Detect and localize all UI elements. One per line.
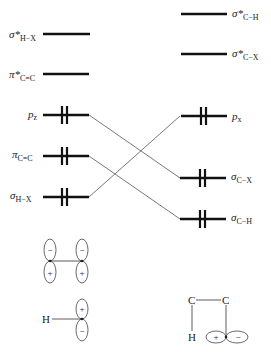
- atom-label: H: [188, 331, 196, 343]
- left-levels: σ*H−X π*C=C pz πC=C σH−X: [9, 28, 90, 206]
- phase-sign: −: [79, 326, 84, 336]
- phase-sign: +: [213, 332, 218, 342]
- level-label: σ*H−X: [9, 28, 36, 43]
- level-pi-c-c: πC=C: [12, 147, 89, 165]
- level-label: π*C=C: [9, 68, 35, 83]
- right-levels: σ*C−H σ*C−X px σC−X σC−H: [180, 7, 259, 228]
- level-pi-star-c-c: π*C=C: [9, 68, 89, 83]
- phase-sign: −: [79, 245, 84, 255]
- phase-sign: +: [79, 304, 84, 314]
- correlation-lines: [89, 115, 180, 219]
- level-sigma-c-x: σC−X: [180, 169, 252, 187]
- level-p-z: pz: [27, 106, 89, 124]
- level-sigma-h-x: σH−X: [10, 188, 89, 206]
- level-label: σ*C−H: [232, 7, 259, 22]
- atom-label: C: [188, 294, 195, 306]
- level-sigma-star-c-h: σ*C−H: [181, 7, 259, 22]
- level-label: σ*C−X: [232, 47, 259, 62]
- sketch-h-p-labels: H + −: [42, 304, 85, 336]
- sketch-pi-bond-signs: − + − +: [47, 245, 84, 278]
- level-p-x: px: [181, 107, 242, 125]
- sketch-c-c-h-labels: C C H + −: [188, 294, 241, 343]
- level-sigma-star-h-x: σ*H−X: [9, 28, 90, 43]
- level-label: σC−X: [231, 170, 252, 185]
- phase-sign: +: [79, 268, 84, 278]
- level-sigma-c-h: σC−H: [180, 210, 252, 228]
- orbital-diagram: σ*H−X π*C=C pz πC=C σH−X σ*C−H: [0, 0, 271, 352]
- correlation-sigma-hx-to-px: [89, 116, 180, 197]
- correlation-pi-to-sigma-ch: [89, 156, 180, 219]
- level-sigma-star-c-x: σ*C−X: [181, 47, 259, 62]
- phase-sign: −: [47, 245, 52, 255]
- level-label: πC=C: [12, 148, 33, 163]
- level-label: σH−X: [10, 189, 32, 204]
- level-label: pz: [27, 108, 38, 122]
- level-label: σC−H: [231, 211, 252, 226]
- atom-label: H: [42, 313, 50, 325]
- level-label: px: [231, 110, 242, 124]
- correlation-pz-to-sigma-cx: [89, 115, 180, 178]
- phase-sign: +: [47, 268, 52, 278]
- atom-label: C: [222, 294, 229, 306]
- phase-sign: −: [235, 332, 240, 342]
